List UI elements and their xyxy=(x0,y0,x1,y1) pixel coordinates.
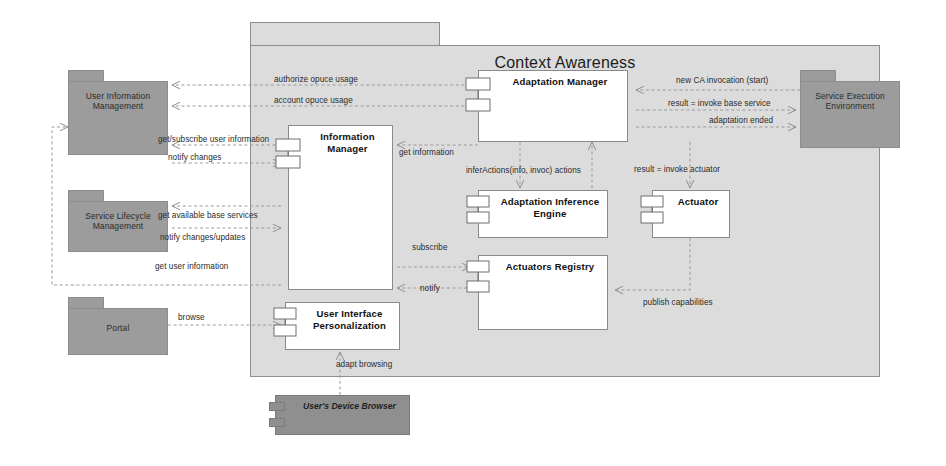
port-actuator-1 xyxy=(641,196,663,207)
label-result-invoke-base-service: result = invoke base service xyxy=(668,99,771,108)
port-actuators-registry-2 xyxy=(467,281,489,292)
label-get-information: get information xyxy=(399,148,454,157)
port-actuators-registry-1 xyxy=(467,261,489,272)
label-account-opuce-usage: account opuce usage xyxy=(274,96,353,105)
label-authorize-opuce-usage: authorize opuce usage xyxy=(274,75,358,84)
port-inference-engine-2 xyxy=(467,212,489,223)
label-adaptation-ended: adaptation ended xyxy=(709,116,773,125)
label-get-subscribe-user-information: get/subscribe user information xyxy=(158,135,269,144)
port-adaptation-manager-1 xyxy=(466,78,490,90)
label-publish-capabilities: publish capabilities xyxy=(643,298,713,307)
port-information-manager-1 xyxy=(276,139,300,151)
label-adapt-browsing: adapt browsing xyxy=(336,360,392,369)
port-uip-2 xyxy=(274,325,296,336)
port-inference-engine-1 xyxy=(467,196,489,207)
port-layer xyxy=(0,0,946,466)
label-notify: notify xyxy=(420,284,440,293)
label-get-user-information: get user information xyxy=(155,262,228,271)
label-subscribe: subscribe xyxy=(412,243,448,252)
label-browse: browse xyxy=(178,313,205,322)
port-uip-1 xyxy=(274,308,296,319)
label-notify-changes-updates: notify changes/updates xyxy=(160,233,245,242)
label-infer-actions: inferActions(info, invoc) actions xyxy=(466,166,581,175)
port-adaptation-manager-2 xyxy=(466,99,490,111)
port-information-manager-2 xyxy=(276,156,300,168)
label-result-invoke-actuator: result = invoke actuator xyxy=(634,165,720,174)
port-actuator-2 xyxy=(641,212,663,223)
label-new-ca-invocation: new CA invocation (start) xyxy=(676,76,768,85)
label-notify-changes: notify changes xyxy=(168,153,222,162)
label-get-available-base-services: get available base services xyxy=(158,211,258,220)
diagram-canvas: Context Awareness User Information Manag… xyxy=(0,0,946,466)
